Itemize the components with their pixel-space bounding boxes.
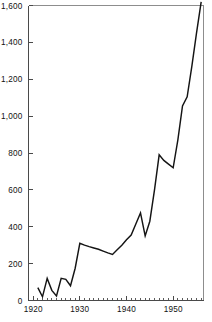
y-tick-label: 400 [8,223,23,232]
line-chart: 02004006008001,0001,2001,4001,600 192019… [0,0,212,322]
x-tick-label: 1920 [24,305,43,314]
y-tick-label: 200 [8,260,23,269]
y-tick-label: 1,200 [1,75,23,84]
chart-container: 02004006008001,0001,2001,4001,600 192019… [0,0,212,322]
x-tick-label: 1930 [70,305,89,314]
y-tick-label: 600 [8,186,23,195]
y-tick-label: 0 [18,297,23,306]
y-tick-label: 1,400 [1,38,23,47]
y-tick-label: 1,000 [1,112,23,121]
y-tick-label: 800 [8,149,23,158]
y-tick-label: 1,600 [1,2,23,11]
chart-background [0,0,212,322]
x-tick-label: 1940 [117,305,136,314]
x-tick-label: 1950 [164,305,183,314]
